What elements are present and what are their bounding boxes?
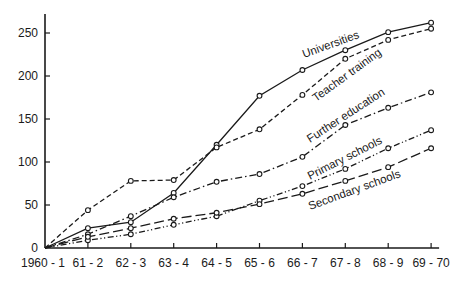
line-secondary-schools bbox=[45, 148, 431, 248]
data-point-marker bbox=[86, 234, 91, 239]
data-point-marker bbox=[429, 128, 434, 133]
data-point-marker bbox=[386, 37, 391, 42]
y-tick-label: 200 bbox=[18, 69, 38, 83]
data-point-marker bbox=[386, 30, 391, 35]
data-point-marker bbox=[386, 146, 391, 151]
data-point-marker bbox=[429, 90, 434, 95]
series-label-primary-schools: Primary schools bbox=[305, 134, 384, 182]
y-axis: 050100150200250 bbox=[18, 14, 50, 255]
data-point-marker bbox=[429, 26, 434, 31]
data-point-marker bbox=[214, 210, 219, 215]
data-point-marker bbox=[214, 145, 219, 150]
line-chart: 050100150200250 1960 - 161 - 262 - 363 -… bbox=[0, 0, 464, 285]
x-axis: 1960 - 161 - 262 - 363 - 464 - 565 - 666… bbox=[21, 243, 450, 270]
x-tick-label: 64 - 5 bbox=[201, 256, 232, 270]
data-point-marker bbox=[300, 191, 305, 196]
data-point-marker bbox=[429, 20, 434, 25]
y-tick-label: 0 bbox=[31, 241, 38, 255]
series-further-education bbox=[45, 90, 434, 248]
y-tick-label: 250 bbox=[18, 26, 38, 40]
data-point-marker bbox=[214, 179, 219, 184]
data-point-marker bbox=[257, 127, 262, 132]
data-point-marker bbox=[86, 226, 91, 231]
x-tick-label: 68 - 9 bbox=[373, 256, 404, 270]
data-point-marker bbox=[429, 146, 434, 151]
series-secondary-schools bbox=[45, 146, 434, 248]
data-point-marker bbox=[128, 214, 133, 219]
x-tick-label: 69 - 70 bbox=[412, 256, 450, 270]
y-tick-label: 50 bbox=[25, 198, 39, 212]
data-point-marker bbox=[300, 93, 305, 98]
x-tick-label: 63 - 4 bbox=[158, 256, 189, 270]
data-point-marker bbox=[386, 165, 391, 170]
y-tick-label: 100 bbox=[18, 155, 38, 169]
x-tick-label: 62 - 3 bbox=[115, 256, 146, 270]
data-point-marker bbox=[128, 232, 133, 237]
data-point-marker bbox=[343, 48, 348, 53]
y-tick-label: 150 bbox=[18, 112, 38, 126]
data-point-marker bbox=[300, 68, 305, 73]
x-tick-label: 1960 - 1 bbox=[21, 256, 65, 270]
data-point-marker bbox=[343, 179, 348, 184]
data-point-marker bbox=[171, 216, 176, 221]
x-tick-label: 65 - 6 bbox=[244, 256, 275, 270]
data-point-marker bbox=[171, 178, 176, 183]
data-point-marker bbox=[128, 179, 133, 184]
series-label-universities: Universities bbox=[301, 28, 361, 60]
data-point-marker bbox=[343, 166, 348, 171]
data-point-marker bbox=[300, 184, 305, 189]
data-point-marker bbox=[257, 202, 262, 207]
x-tick-label: 66 - 7 bbox=[287, 256, 318, 270]
data-point-marker bbox=[343, 56, 348, 61]
data-point-marker bbox=[257, 93, 262, 98]
data-point-marker bbox=[300, 154, 305, 159]
line-further-education bbox=[45, 92, 431, 248]
x-tick-label: 67 - 8 bbox=[330, 256, 361, 270]
x-tick-label: 61 - 2 bbox=[73, 256, 104, 270]
data-point-marker bbox=[128, 226, 133, 231]
data-point-marker bbox=[128, 220, 133, 225]
data-point-marker bbox=[171, 222, 176, 227]
data-point-marker bbox=[171, 195, 176, 200]
data-point-marker bbox=[86, 208, 91, 213]
data-point-marker bbox=[386, 105, 391, 110]
data-point-marker bbox=[257, 172, 262, 177]
